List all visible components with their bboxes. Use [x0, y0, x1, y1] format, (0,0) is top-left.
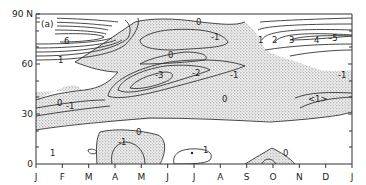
y-label-0: 0: [27, 159, 33, 169]
x-label-apr: A: [112, 172, 119, 182]
x-label-nov: N: [296, 172, 303, 182]
contour-chart: 6 1 0 -1 0 -3 -2 -1 0 1 2 3 4 –5 -1 <1> …: [0, 0, 366, 185]
contour-label-neg1a: -1: [211, 32, 219, 42]
y-label-30: 30: [22, 109, 34, 119]
x-label-dec: D: [322, 172, 329, 182]
contour-label-0a: 0: [196, 17, 201, 27]
contour-label-3: 3: [289, 35, 294, 45]
contour-label-0c: 0: [222, 94, 227, 104]
x-label-aug: A: [217, 172, 224, 182]
contour-label-0d: 0: [57, 98, 62, 108]
contour-label-neg1c: -1: [338, 70, 346, 80]
contour-label-neg1e: -1: [118, 137, 126, 147]
x-label-oct: O: [269, 172, 276, 182]
x-label-mar: M: [85, 172, 93, 182]
x-label-jan: J: [34, 172, 38, 182]
contour-label-neg1d: -1: [66, 101, 74, 111]
y-label-60: 60: [22, 59, 34, 69]
x-label-sep: S: [244, 172, 250, 182]
y-label-90: 90 N: [12, 9, 33, 19]
contour-label-0b: 0: [168, 50, 173, 60]
x-labels: J F M A M J J A S O N D J: [34, 172, 354, 182]
contour-label-1c: 1: [50, 148, 55, 158]
contour-label-0f: 0: [283, 148, 288, 158]
x-label-jan-next: J: [350, 172, 354, 182]
contour-label-neg2: -2: [192, 68, 200, 78]
contour-label-1d: 1: [203, 145, 208, 155]
contour-label-neg3: -3: [155, 70, 163, 80]
contour-label-0e: 0: [136, 127, 141, 137]
contour-label-2: 2: [272, 35, 277, 45]
contour-label-1a: 1: [58, 55, 63, 65]
x-ticks: [36, 164, 352, 168]
contour-label-4: 4: [314, 35, 319, 45]
x-label-may: M: [137, 172, 145, 182]
panel-label: (a): [41, 19, 54, 29]
x-label-feb: F: [60, 172, 65, 182]
contour-label-neg1b: -1: [230, 70, 238, 80]
contour-label-5: –5: [328, 33, 338, 43]
point-marker: [191, 152, 193, 154]
x-label-jun: J: [165, 172, 169, 182]
contour-label-lt1: <1>: [308, 94, 328, 104]
x-label-jul: J: [192, 172, 196, 182]
contour-label-1b: 1: [258, 35, 263, 45]
contour-label-neg6: 6: [64, 36, 69, 46]
